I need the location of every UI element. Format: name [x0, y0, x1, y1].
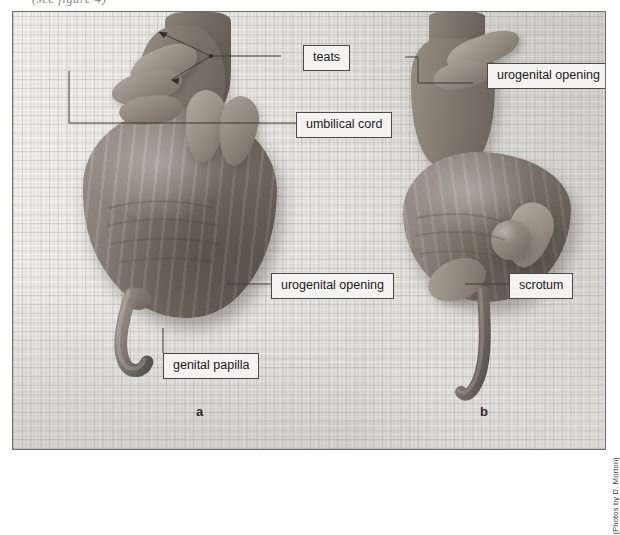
figure-plate: teats umbilical cord urogenital opening …: [12, 11, 606, 450]
cutoff-caption-text: (see figure 4): [32, 0, 106, 7]
annotation-label-teats[interactable]: teats: [303, 45, 350, 71]
annotation-label-genital-papilla[interactable]: genital papilla: [163, 353, 259, 379]
annotation-label-scrotum[interactable]: scrotum: [509, 273, 573, 299]
annotation-label-umbilical-cord[interactable]: umbilical cord: [296, 112, 392, 138]
cutoff-caption-strip: (see figure 4): [0, 0, 620, 11]
annotation-label-urogenital-opening-b[interactable]: urogenital opening: [487, 63, 606, 89]
panel-letter-a: a: [196, 404, 203, 419]
annotation-layer: teats umbilical cord urogenital opening …: [13, 12, 606, 450]
panel-letter-b: b: [480, 404, 488, 419]
annotation-label-urogenital-opening-a[interactable]: urogenital opening: [271, 273, 394, 299]
photo-credit: (Photos by D. Morton): [611, 457, 620, 535]
